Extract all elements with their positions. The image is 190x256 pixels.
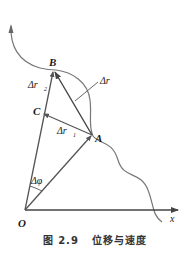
label-c: C xyxy=(33,105,41,117)
label-delta-r1-sub: 1 xyxy=(73,132,76,138)
label-delta-phi: Δφ xyxy=(30,175,43,186)
displacement-velocity-diagram: B C A O x Δr⃗ Δr⃗ 2 Δr⃗ 1 Δφ xyxy=(0,0,190,256)
label-b: B xyxy=(48,56,56,68)
label-delta-r: Δr⃗ xyxy=(99,75,118,86)
label-x-axis: x xyxy=(169,213,175,224)
delta-phi-arc xyxy=(30,186,42,191)
label-origin: O xyxy=(18,217,26,229)
label-delta-r2-sub: 2 xyxy=(44,86,47,92)
figure-caption: 图 2.9 位移与速度 xyxy=(0,232,190,247)
delta-r-leader xyxy=(75,82,98,101)
label-delta-r1: Δr⃗ xyxy=(56,125,75,136)
trajectory-curve xyxy=(11,26,162,222)
label-a: A xyxy=(94,132,102,144)
caption-title: 位移与速度 xyxy=(92,235,147,246)
trajectory-arrow-icon xyxy=(9,24,14,33)
position-vector-a xyxy=(25,136,91,210)
caption-number: 图 2.9 xyxy=(43,235,79,246)
label-delta-r2: Δr⃗ xyxy=(27,79,46,90)
